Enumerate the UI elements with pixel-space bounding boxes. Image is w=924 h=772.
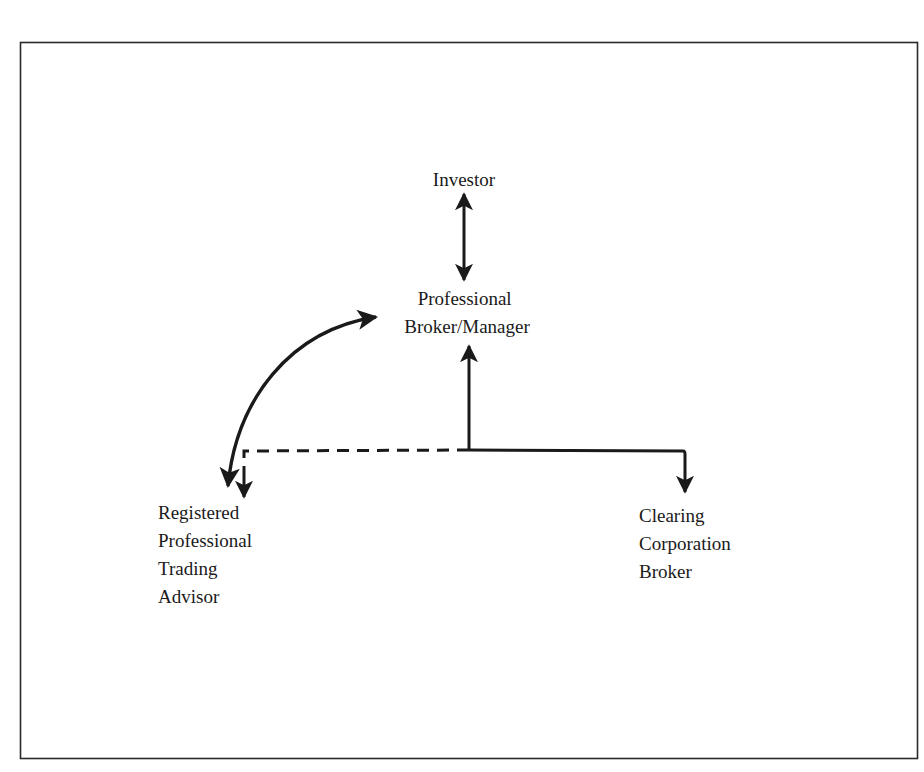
edge-junction-advisor-dashed [244, 450, 469, 494]
broker-manager-label-line2: Broker/Manager [404, 316, 530, 337]
investor-label: Investor [433, 169, 496, 190]
diagram-canvas: Investor Professional Broker/Manager Reg… [0, 0, 924, 772]
broker-manager-label-line1: Professional [418, 288, 512, 309]
edge-junction-clearing-arrow [469, 450, 685, 492]
advisor-label-line4: Advisor [158, 586, 220, 607]
advisor-label-line1: Registered [158, 502, 240, 523]
clearing-label-line3: Broker [639, 561, 692, 582]
advisor-label-line3: Trading [158, 558, 218, 579]
edge-advisor-broker-curved-arrow [228, 317, 376, 486]
clearing-label-line2: Corporation [639, 533, 731, 554]
node-broker-manager: Professional Broker/Manager [404, 288, 530, 337]
node-investor: Investor [433, 169, 496, 190]
advisor-label-line2: Professional [158, 530, 252, 551]
clearing-label-line1: Clearing [639, 505, 705, 526]
node-trading-advisor: Registered Professional Trading Advisor [158, 502, 257, 607]
diagram-svg: Investor Professional Broker/Manager Reg… [0, 0, 924, 772]
node-clearing-broker: Clearing Corporation Broker [639, 505, 736, 582]
